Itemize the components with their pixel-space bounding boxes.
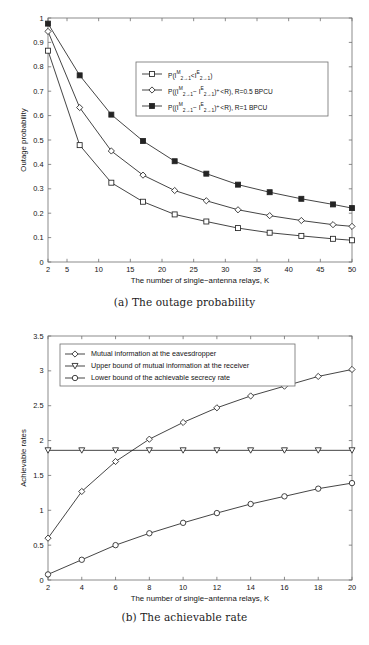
- figure-b-caption: (b) The achievable rate: [0, 611, 369, 623]
- data-point-marker: [172, 159, 177, 164]
- data-point-marker: [147, 531, 152, 536]
- y-tick-label: 0.5: [33, 541, 43, 550]
- data-point-marker: [316, 486, 321, 491]
- x-tick-label: 16: [280, 583, 288, 592]
- x-tick-label: 5: [65, 265, 69, 274]
- legend-item[interactable]: Upper bound of mutual information at the…: [65, 361, 250, 370]
- y-axis-label: Achievable rates: [19, 429, 28, 487]
- y-tick-label: 3.5: [33, 332, 43, 341]
- data-point-marker: [267, 190, 272, 195]
- figure-page: 2510152025303540455000.10.20.30.40.50.60…: [0, 0, 369, 645]
- x-tick-label: 35: [253, 265, 261, 274]
- x-tick-label: 2: [46, 265, 50, 274]
- y-tick-label: 0: [39, 576, 43, 585]
- data-point-marker: [236, 182, 241, 187]
- legend-label: Lower bound of the achievable secrecy ra…: [91, 373, 230, 382]
- data-point-marker: [79, 557, 84, 562]
- y-axis-label: Outage probability: [19, 108, 28, 171]
- figure-a-caption: (a) The outage probability: [0, 296, 369, 308]
- y-tick-label: 0.5: [33, 136, 43, 145]
- data-point-marker: [109, 112, 114, 117]
- y-tick-label: 0.1: [33, 233, 43, 242]
- y-tick-label: 2.5: [33, 401, 43, 410]
- data-point-marker: [150, 104, 155, 109]
- data-point-marker: [77, 73, 82, 78]
- x-tick-label: 10: [95, 265, 103, 274]
- data-point-marker: [331, 236, 336, 241]
- data-point-marker: [172, 212, 177, 217]
- data-point-marker: [77, 143, 82, 148]
- x-tick-label: 20: [348, 583, 356, 592]
- data-point-marker: [350, 238, 355, 243]
- x-axis-label: The number of single−antenna relays, K: [131, 594, 270, 603]
- x-tick-label: 18: [314, 583, 322, 592]
- x-tick-label: 2: [46, 583, 50, 592]
- data-point-marker: [331, 202, 336, 207]
- y-tick-label: 3: [39, 366, 43, 375]
- x-tick-label: 10: [179, 583, 187, 592]
- plot-frame: [48, 18, 352, 262]
- data-point-marker: [150, 72, 155, 77]
- data-point-marker: [248, 501, 253, 506]
- y-tick-label: 0.6: [33, 111, 43, 120]
- legend-b: Mutual information at the eavesdropperUp…: [60, 344, 295, 386]
- data-point-marker: [350, 206, 355, 211]
- data-point-marker: [180, 520, 185, 525]
- data-point-marker: [72, 375, 77, 380]
- x-tick-label: 45: [316, 265, 324, 274]
- x-tick-label: 14: [247, 583, 255, 592]
- y-tick-label: 0.2: [33, 209, 43, 218]
- data-point-marker: [46, 21, 51, 26]
- x-tick-label: 6: [113, 583, 117, 592]
- data-point-marker: [45, 572, 50, 577]
- data-point-marker: [141, 138, 146, 143]
- outage-probability-chart: 2510152025303540455000.10.20.30.40.50.60…: [0, 0, 369, 300]
- x-tick-label: 15: [126, 265, 134, 274]
- legend-label: Mutual information at the eavesdropper: [91, 349, 217, 358]
- data-point-marker: [113, 542, 118, 547]
- y-tick-label: 0: [39, 258, 43, 267]
- data-point-marker: [299, 233, 304, 238]
- data-point-marker: [299, 196, 304, 201]
- data-point-marker: [46, 48, 51, 53]
- x-tick-label: 40: [285, 265, 293, 274]
- legend-label: Upper bound of mutual information at the…: [91, 361, 250, 370]
- data-point-marker: [349, 480, 354, 485]
- y-tick-label: 0.3: [33, 184, 43, 193]
- x-tick-label: 25: [190, 265, 198, 274]
- y-tick-label: 0.9: [33, 38, 43, 47]
- data-point-marker: [267, 230, 272, 235]
- y-tick-label: 0.4: [33, 160, 43, 169]
- data-point-marker: [214, 510, 219, 515]
- figure-outage-probability: 2510152025303540455000.10.20.30.40.50.60…: [0, 0, 369, 322]
- data-point-marker: [141, 199, 146, 204]
- data-point-marker: [236, 226, 241, 231]
- x-axis-label: The number of single−antenna relays, K: [131, 276, 270, 285]
- x-tick-label: 50: [348, 265, 356, 274]
- x-tick-label: 8: [147, 583, 151, 592]
- data-point-marker: [282, 494, 287, 499]
- legend-a: P(IM2→1<IE2→1)P((IM2→1− IE2→1)⁺<R), R=0.…: [136, 62, 328, 116]
- y-tick-label: 0.8: [33, 62, 43, 71]
- x-tick-label: 4: [80, 583, 84, 592]
- figure-achievable-rate: 246810121416182000.511.522.533.5The numb…: [0, 322, 369, 645]
- x-tick-label: 30: [221, 265, 229, 274]
- data-point-marker: [204, 219, 209, 224]
- y-tick-label: 2: [39, 436, 43, 445]
- y-tick-label: 1: [39, 14, 43, 23]
- y-tick-label: 1.5: [33, 471, 43, 480]
- y-tick-label: 1: [39, 506, 43, 515]
- achievable-rate-chart: 246810121416182000.511.522.533.5The numb…: [0, 322, 369, 617]
- y-tick-label: 0.7: [33, 87, 43, 96]
- data-point-marker: [204, 171, 209, 176]
- x-tick-label: 12: [213, 583, 221, 592]
- x-tick-label: 20: [158, 265, 166, 274]
- data-point-marker: [109, 180, 114, 185]
